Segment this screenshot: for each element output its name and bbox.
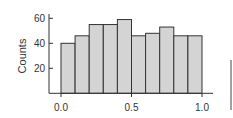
- x-tick-label: 0.5: [125, 102, 139, 113]
- histogram-bar: [132, 36, 146, 94]
- x-tick-label: 1.0: [195, 102, 209, 113]
- histogram-bar: [89, 25, 103, 94]
- x-tick-label: 0.0: [54, 102, 68, 113]
- histogram-bar: [160, 27, 174, 93]
- histogram-bar: [174, 36, 188, 94]
- histogram-bar: [61, 43, 75, 93]
- y-tick-label: 40: [34, 38, 46, 49]
- y-axis-title: Counts: [16, 38, 28, 73]
- y-tick-label: 60: [34, 13, 46, 24]
- y-axis-ticks: 204060: [34, 13, 53, 74]
- x-axis-ticks: 0.00.51.0: [54, 93, 209, 113]
- histogram-chart: 204060 0.00.51.0 Counts: [0, 0, 233, 118]
- histogram-bars: [61, 20, 202, 94]
- histogram-bar: [188, 36, 202, 94]
- histogram-bar: [75, 36, 89, 94]
- histogram-bar: [103, 25, 117, 94]
- y-tick-label: 20: [34, 63, 46, 74]
- histogram-bar: [117, 20, 131, 94]
- histogram-bar: [146, 33, 160, 93]
